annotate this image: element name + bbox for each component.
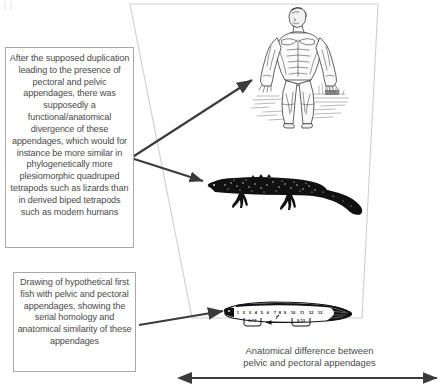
axis-label-anatomical-difference: Anatomical difference between pelvic and…	[178, 345, 441, 370]
svg-text:12: 12	[309, 310, 314, 315]
axis-label-line1: Anatomical difference between	[178, 345, 441, 357]
arrow-to-lizard	[131, 158, 203, 181]
lizard-silhouette-icon	[205, 170, 370, 225]
caption-upper-divergence: After the supposed duplication leading t…	[5, 47, 134, 248]
caption-lower-first-fish: Drawing of hypothetical first fish with …	[13, 272, 136, 372]
human-figure-icon	[249, 4, 351, 130]
fish-diagram-icon: 1 2 3 4 5 6 7 8 9 10 11 12 13 9-13 9-13	[222, 300, 357, 336]
svg-text:11: 11	[300, 310, 305, 315]
axis-label-line2: pelvic and pectoral appendages	[178, 357, 441, 369]
svg-text:9-13: 9-13	[297, 318, 306, 323]
arrow-to-human	[131, 80, 252, 158]
svg-text:9-13: 9-13	[249, 318, 258, 323]
figure-panel: 1 2 3 4 5 6 7 8 9 10 11 12 13 9-13 9-13	[0, 0, 443, 387]
svg-text:10: 10	[291, 310, 296, 315]
svg-text:13: 13	[318, 310, 323, 315]
